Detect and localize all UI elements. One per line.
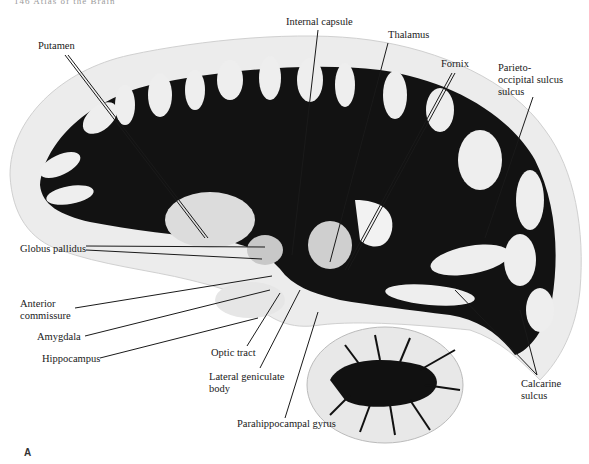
globus-pallidus-region (247, 235, 283, 265)
panel-letter: A (24, 447, 31, 458)
putamen-region (165, 192, 255, 248)
label-parieto-line2: occipital sulcus (498, 74, 563, 86)
label-internal-capsule: Internal capsule (286, 16, 353, 28)
label-amygdala: Amygdala (37, 331, 81, 343)
label-parahippocampal-gyrus: Parahippocampal gyrus (237, 418, 336, 430)
label-calcarine-line1: Calcarine (521, 378, 561, 390)
label-lateral-geniculate-line2: body (209, 383, 230, 395)
label-optic-tract: Optic tract (211, 347, 256, 359)
label-hippocampus: Hippocampus (42, 353, 100, 365)
label-calcarine-line2: sulcus (521, 390, 547, 402)
label-parieto-line1: Parieto- (498, 62, 531, 74)
temporal-region (215, 282, 285, 318)
label-fornix: Fornix (441, 58, 469, 70)
label-globus-pallidus: Globus pallidus (20, 243, 86, 255)
label-putamen: Putamen (38, 40, 75, 52)
label-parieto-line3: sulcus (498, 86, 524, 98)
label-anterior-line2: commissure (20, 310, 71, 322)
label-lateral-geniculate-line1: Lateral geniculate (209, 371, 285, 383)
label-thalamus: Thalamus (388, 29, 429, 41)
label-anterior-line1: Anterior (20, 298, 56, 310)
